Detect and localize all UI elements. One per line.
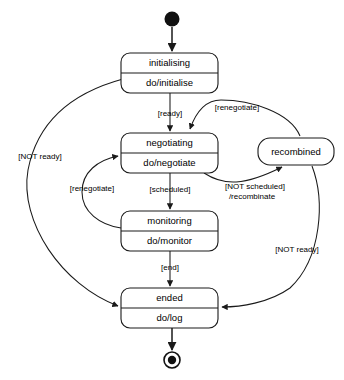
edge-label-not-ready-left: [NOT ready] bbox=[18, 152, 61, 161]
state-initialising-activity: do/initialise bbox=[146, 77, 193, 88]
edge-label-end: [end] bbox=[161, 263, 179, 272]
state-ended-name: ended bbox=[156, 292, 182, 303]
state-diagram-canvas: [ready] [NOT ready] [scheduled] [NOT sch… bbox=[0, 0, 344, 380]
edge-label-scheduled: [scheduled] bbox=[150, 185, 191, 194]
state-ended-activity: do/log bbox=[157, 312, 183, 323]
edge-label-renegotiate-right: [renegotiate] bbox=[215, 103, 259, 112]
final-state bbox=[164, 352, 180, 368]
initial-pseudostate bbox=[165, 12, 180, 27]
uml-state-diagram: [ready] [NOT ready] [scheduled] [NOT sch… bbox=[0, 0, 344, 380]
edge-label-recombinate: /recombinate bbox=[229, 192, 276, 201]
transition-initialising-to-negotiating: [ready] bbox=[158, 93, 182, 131]
transition-monitoring-to-ended: [end] bbox=[161, 251, 179, 286]
state-recombined[interactable]: recombined bbox=[258, 138, 334, 165]
state-negotiating-activity: do/negotiate bbox=[143, 157, 195, 168]
transition-negotiating-to-monitoring: [scheduled] bbox=[150, 173, 191, 209]
edge-label-not-scheduled: [NOT scheduled] bbox=[225, 182, 285, 191]
transition-monitoring-to-negotiating: [renegotiate] bbox=[70, 156, 121, 228]
transition-recombined-to-negotiating: [renegotiate] bbox=[190, 100, 300, 136]
state-monitoring-activity: do/monitor bbox=[147, 235, 192, 246]
state-monitoring-name: monitoring bbox=[147, 215, 191, 226]
state-monitoring[interactable]: monitoring do/monitor bbox=[121, 211, 218, 251]
transition-negotiating-to-recombined: [NOT scheduled] /recombinate bbox=[204, 167, 285, 201]
state-recombined-name: recombined bbox=[271, 146, 321, 157]
edge-label-not-ready-right: [NOT ready] bbox=[275, 245, 318, 254]
state-negotiating-name: negotiating bbox=[146, 137, 192, 148]
state-negotiating[interactable]: negotiating do/negotiate bbox=[121, 133, 218, 173]
edge-label-ready: [ready] bbox=[158, 109, 182, 118]
edge-label-renegotiate-left: [renegotiate] bbox=[70, 184, 114, 193]
state-initialising[interactable]: initialising do/initialise bbox=[121, 53, 218, 93]
state-ended[interactable]: ended do/log bbox=[121, 288, 218, 328]
state-initialising-name: initialising bbox=[149, 57, 190, 68]
